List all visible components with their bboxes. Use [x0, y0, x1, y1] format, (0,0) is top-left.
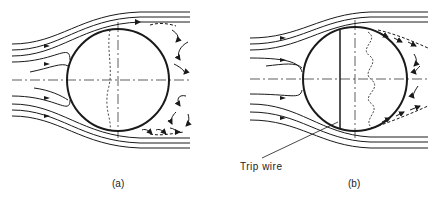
wake-eddies-b — [378, 30, 428, 126]
cylinder-flow-diagram — [0, 0, 440, 198]
turbulent-boundary-b — [366, 32, 374, 128]
streamlines-bottom-a — [12, 88, 190, 148]
streamlines-top-a — [12, 12, 190, 72]
panel-a-caption: (a) — [112, 178, 124, 189]
trip-wire-label: Trip wire — [240, 161, 282, 172]
flow-arrows-a — [44, 44, 50, 118]
flow-arrows-b — [280, 36, 286, 120]
streamlines-bottom-b — [250, 90, 428, 148]
panel-b-caption: (b) — [348, 178, 360, 189]
panel-a — [12, 12, 192, 148]
panel-b — [250, 12, 428, 158]
trip-wire-leader-line — [262, 122, 338, 158]
